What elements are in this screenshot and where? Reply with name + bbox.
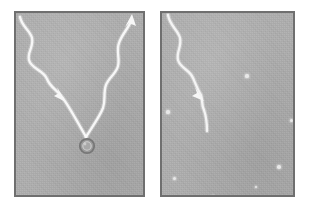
filament-glow — [168, 15, 207, 131]
particle-highlight — [84, 143, 87, 146]
speck — [166, 110, 169, 113]
filament-left-branch-glow — [20, 17, 86, 137]
circular-particle — [80, 139, 94, 153]
panel-right-trace-overlay — [160, 11, 295, 197]
v-shaped-filament — [20, 14, 136, 137]
panel-left-trace-overlay — [14, 11, 145, 197]
micrograph-figure — [0, 0, 311, 213]
speck — [290, 119, 293, 122]
speck — [277, 165, 280, 168]
speck — [173, 177, 176, 180]
panel-left[interactable] — [14, 11, 145, 197]
panel-right[interactable] — [160, 11, 295, 197]
filament-right-branch-glow — [86, 21, 131, 137]
speck — [245, 74, 248, 77]
single-curved-filament — [168, 15, 207, 131]
